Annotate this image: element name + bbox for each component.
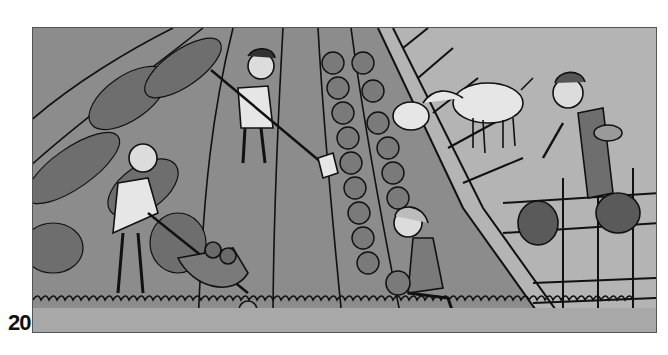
garden-illustration: [32, 27, 657, 333]
boy-with-shovel: [211, 49, 338, 178]
garden-scene: [33, 28, 657, 333]
ground-strip: [33, 308, 657, 333]
chicken-left: [518, 201, 558, 245]
page-number: 20: [8, 312, 30, 334]
chicken-right: [596, 193, 640, 233]
